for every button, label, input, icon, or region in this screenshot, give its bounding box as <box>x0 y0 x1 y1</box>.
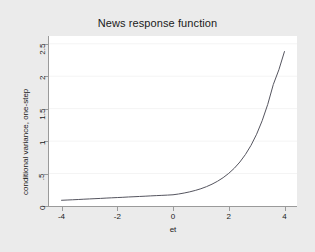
plot-area <box>49 36 297 206</box>
x-tick-mark <box>62 207 63 211</box>
y-tick-label: 1 <box>38 141 47 145</box>
data-line-0 <box>62 52 285 201</box>
x-tick-label: 4 <box>265 212 305 221</box>
y-tick-label: .5 <box>38 173 47 180</box>
x-tick-mark <box>173 207 174 211</box>
x-tick-mark <box>117 207 118 211</box>
x-tick-label: 2 <box>209 212 249 221</box>
y-tick-label: 2 <box>38 76 47 80</box>
y-axis-title: conditional variance, one-step <box>21 89 30 195</box>
x-tick-mark <box>285 207 286 211</box>
x-tick-label: 0 <box>153 212 193 221</box>
gridlines-group <box>49 44 297 174</box>
x-tick-label: -2 <box>97 212 137 221</box>
chart-title: News response function <box>5 17 310 29</box>
y-tick-label: 0 <box>38 206 47 210</box>
graph-region: News response function 0.511.522.5 -4-20… <box>5 5 310 247</box>
x-tick-label: -4 <box>42 212 82 221</box>
y-tick-label: 2.5 <box>38 43 47 54</box>
y-tick-label: 1.5 <box>38 108 47 119</box>
x-tick-mark <box>229 207 230 211</box>
y-axis-line <box>48 36 49 207</box>
plot-svg <box>49 36 297 206</box>
chart-figure: News response function 0.511.522.5 -4-20… <box>0 0 315 252</box>
data-series-group <box>62 52 285 201</box>
x-axis-title: et <box>49 225 297 234</box>
